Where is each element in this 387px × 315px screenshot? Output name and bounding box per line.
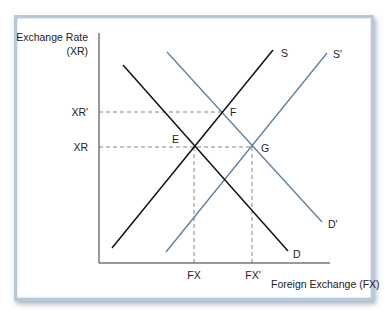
y-axis-label-line1: Exchange Rate bbox=[16, 31, 88, 43]
label-d: D bbox=[293, 248, 301, 260]
x-axis-label: Foreign Exchange (FX) bbox=[271, 278, 380, 290]
y-axis-label-line2: (XR) bbox=[66, 45, 88, 57]
label-s: S bbox=[281, 47, 288, 59]
tick-xr: XR bbox=[73, 141, 88, 153]
tick-xr-prime: XR' bbox=[71, 106, 88, 118]
label-d-prime: D' bbox=[328, 218, 338, 230]
tick-fx-prime: FX' bbox=[245, 269, 260, 281]
demand-shifted-curve bbox=[167, 52, 322, 222]
label-s-prime: S' bbox=[333, 48, 342, 60]
label-e: E bbox=[172, 133, 179, 145]
tick-fx: FX bbox=[187, 269, 200, 281]
supply-demand-chart: Exchange Rate (XR) Foreign Exchange (FX)… bbox=[0, 0, 387, 315]
label-g: G bbox=[261, 142, 269, 154]
label-f: F bbox=[230, 106, 236, 118]
